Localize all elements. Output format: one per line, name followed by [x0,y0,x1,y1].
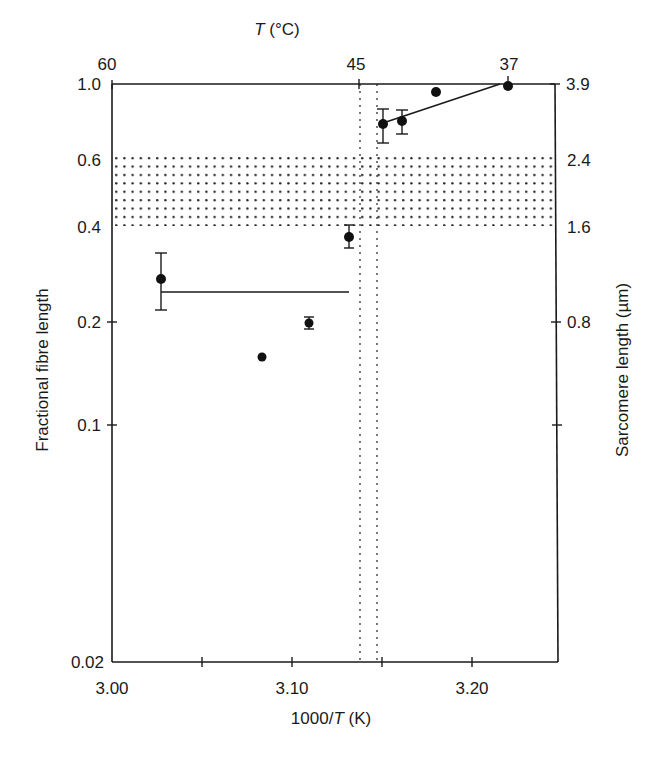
y2-tick-label: 2.4 [567,151,591,170]
data-point [378,119,388,129]
x-tick-label: 3.00 [95,679,128,698]
x-tick-label: 3.20 [455,679,488,698]
data-point [258,353,267,362]
x2-axis-ticks [112,76,508,90]
x2-tick-label: 60 [98,55,117,74]
y2-tick-label: 1.6 [567,218,591,237]
y-axis-title: Fractional fibre length [33,288,52,451]
y-tick-label: 1.0 [77,75,101,94]
data-point [397,116,407,126]
x2-tick-label: 45 [347,55,366,74]
x-tick-label: 3.10 [275,679,308,698]
y2-axis-title: Sarcomere length (µm) [613,283,632,457]
data-point [305,319,314,328]
y2-tick-label: 3.9 [566,75,590,94]
chart: T (°C) 60 45 37 1.0 0.6 0.4 0.2 0.1 0.02… [0,0,664,763]
y2-tick-label: 0.8 [567,313,591,332]
y-tick-label: 0.2 [77,313,101,332]
sarcomere-range-band [113,155,553,226]
y-tick-label: 0.02 [71,653,104,672]
y-tick-label: 0.6 [77,151,101,170]
x2-axis-title: T (°C) [254,20,300,39]
data-point [503,81,513,91]
data-point [344,232,354,242]
y-tick-label: 0.4 [77,218,101,237]
data-point [156,274,166,284]
y-tick-label: 0.1 [77,416,101,435]
x2-tick-label: 37 [500,55,519,74]
x-axis-title: 1000/T (K) [291,709,371,728]
data-point [431,87,441,97]
